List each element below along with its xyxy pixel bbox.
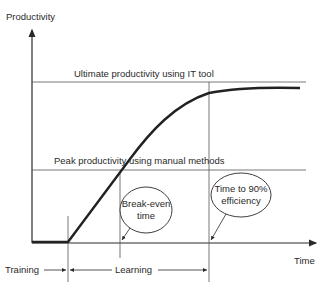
break-even-text: Break-even time <box>120 198 172 222</box>
learning-label: Learning <box>115 265 152 275</box>
manual-line-label: Peak productivity using manual methods <box>54 156 225 166</box>
ninety-line2: efficiency <box>211 195 271 207</box>
break-even-pointer <box>122 228 130 240</box>
y-axis-label: Productivity <box>6 12 55 22</box>
break-even-line2: time <box>120 210 172 222</box>
ultimate-line-label: Ultimate productivity using IT tool <box>74 69 214 79</box>
ninety-percent-text: Time to 90% efficiency <box>211 183 271 207</box>
training-label: Training <box>5 265 39 275</box>
break-even-line1: Break-even <box>120 198 172 210</box>
ninety-line1: Time to 90% <box>211 183 271 195</box>
ninety-percent-pointer <box>211 214 226 240</box>
x-axis-label: Time <box>294 256 315 266</box>
diagram-canvas <box>0 0 322 286</box>
